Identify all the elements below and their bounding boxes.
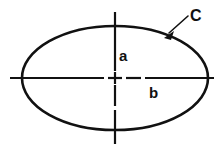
ellipse-diagram-figure: a b C <box>0 0 222 155</box>
diagram-canvas: a b C <box>0 0 222 155</box>
label-semi-major-b: b <box>149 84 158 101</box>
leader-line-c <box>169 16 188 33</box>
label-curve-c: C <box>190 7 202 24</box>
label-semi-minor-a: a <box>119 47 128 64</box>
